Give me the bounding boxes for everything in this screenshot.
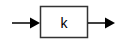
output-arrowhead-icon bbox=[105, 18, 115, 29]
input-arrowhead-icon bbox=[30, 18, 40, 29]
gain-block: k bbox=[41, 7, 88, 38]
input-arrow bbox=[12, 18, 40, 29]
gain-block-label: k bbox=[61, 15, 69, 31]
block-diagram: k bbox=[0, 0, 131, 46]
output-arrow bbox=[88, 18, 115, 29]
